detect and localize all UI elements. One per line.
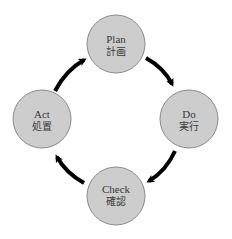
arrow-check-to-act: [57, 157, 84, 183]
node-do-label: Do 実行: [160, 109, 218, 132]
do-label-en: Do: [160, 109, 218, 120]
check-label-en: Check: [87, 184, 145, 195]
act-label-en: Act: [13, 109, 71, 120]
pdca-diagram: Plan 計画 Do 実行 Check 確認 Act 処置: [0, 0, 232, 239]
arrow-do-to-check: [149, 151, 175, 181]
check-label-ja: 確認: [87, 196, 145, 207]
node-check-label: Check 確認: [87, 184, 145, 207]
act-label-ja: 処置: [13, 121, 71, 132]
node-act-label: Act 処置: [13, 109, 71, 132]
arrow-plan-to-do: [146, 58, 172, 84]
plan-label-en: Plan: [87, 34, 145, 45]
node-plan-label: Plan 計画: [87, 34, 145, 57]
plan-label-ja: 計画: [87, 46, 145, 57]
arrow-act-to-plan: [55, 60, 84, 91]
do-label-ja: 実行: [160, 121, 218, 132]
